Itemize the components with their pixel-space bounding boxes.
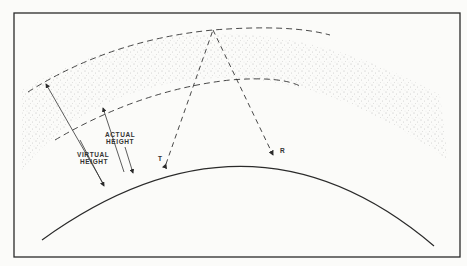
virtual-height-label-1: VIRTUAL	[77, 151, 109, 158]
ionosphere-layer	[22, 34, 448, 170]
actual-height-arrow-lower	[125, 147, 133, 173]
earth-surface	[42, 166, 434, 246]
transmitter-label: T	[158, 155, 163, 162]
receiver-label: R	[280, 147, 285, 154]
ionosphere-diagram: ACTUAL HEIGHT VIRTUAL HEIGHT T R	[0, 0, 467, 266]
actual-height-label-2: HEIGHT	[106, 138, 134, 145]
virtual-height-label-2: HEIGHT	[80, 158, 108, 165]
actual-height-label-1: ACTUAL	[105, 131, 135, 138]
